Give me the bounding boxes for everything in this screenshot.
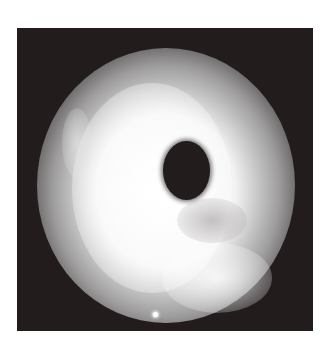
lower-glow: [162, 243, 272, 313]
bright-spot: [153, 312, 158, 317]
dark-hole: [163, 141, 210, 200]
left-wisp: [62, 108, 92, 178]
shadow-region: [177, 198, 247, 243]
image-frame: [17, 28, 313, 331]
